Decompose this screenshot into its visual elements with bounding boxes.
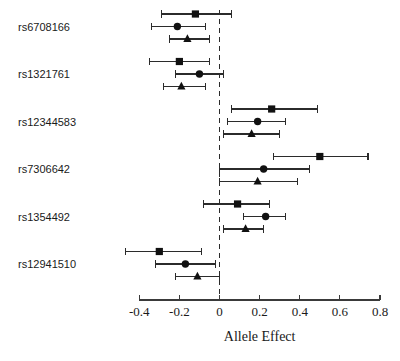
- marker-circle: [182, 260, 189, 267]
- marker-square: [176, 58, 183, 65]
- marker-square: [156, 248, 163, 255]
- snp-label-rs1321761: rs1321761: [18, 68, 70, 80]
- x-axis-tick-label: -0.4: [129, 304, 150, 319]
- x-axis-tick-label: 0.6: [332, 304, 349, 319]
- x-axis-tick-label: 0: [216, 304, 223, 319]
- snp-label-rs1354492: rs1354492: [18, 211, 70, 223]
- marker-circle: [196, 70, 203, 77]
- marker-circle: [254, 118, 261, 125]
- x-axis-tick-label: 0.8: [372, 304, 388, 319]
- x-axis-tick-label: -0.2: [169, 304, 190, 319]
- marker-square: [316, 153, 323, 160]
- marker-circle: [260, 165, 267, 172]
- marker-circle: [174, 23, 181, 30]
- snp-label-rs12344583: rs12344583: [18, 116, 76, 128]
- marker-square: [234, 200, 241, 207]
- snp-label-rs12941510: rs12941510: [18, 258, 76, 270]
- forest-plot-svg: -0.4-0.200.20.40.60.8 rs6708166rs1321761…: [0, 0, 400, 361]
- x-axis-title: Allele Effect: [224, 329, 296, 344]
- x-axis-tick-label: 0.2: [252, 304, 268, 319]
- marker-circle: [262, 213, 269, 220]
- snp-label-rs7306642: rs7306642: [18, 163, 70, 175]
- marker-square: [268, 105, 275, 112]
- x-axis-tick-label: 0.4: [292, 304, 309, 319]
- forest-plot-figure: -0.4-0.200.20.40.60.8 rs6708166rs1321761…: [0, 0, 400, 361]
- snp-label-rs6708166: rs6708166: [18, 21, 70, 33]
- marker-square: [192, 10, 199, 17]
